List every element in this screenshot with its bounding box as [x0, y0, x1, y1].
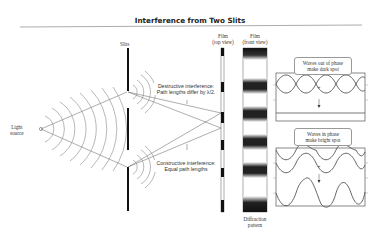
film-top-view	[221, 48, 224, 212]
in-phase-callout: Waves in phase make bright spot	[294, 128, 352, 146]
light-source-label: Light source	[10, 124, 24, 136]
diagram-graphics: + +	[0, 0, 380, 238]
film-top-view-label: Film (top view)	[208, 33, 238, 45]
film-front-view-label: Film (front view)	[240, 33, 270, 45]
out-of-phase-callout: Waves out of phase make dark spot	[294, 57, 352, 75]
slits-label: Slits	[120, 41, 129, 47]
in-phase-box: +	[273, 144, 368, 207]
destructive-interference-label: Destructive interference: Path lengths d…	[153, 83, 219, 95]
two-slit-diagram: Interference from Two Slits	[0, 0, 380, 238]
path-lines	[128, 92, 221, 167]
title-divider	[20, 25, 362, 27]
svg-text:+: +	[317, 164, 320, 169]
svg-text:+: +	[317, 85, 320, 90]
out-of-phase-box: +	[273, 73, 368, 121]
film-front-view	[243, 48, 267, 212]
diffraction-pattern-label: Diffraction pattern	[240, 216, 270, 228]
source-wavefronts	[45, 87, 127, 171]
constructive-interference-label: Constructive interference: Equal path le…	[153, 160, 219, 172]
